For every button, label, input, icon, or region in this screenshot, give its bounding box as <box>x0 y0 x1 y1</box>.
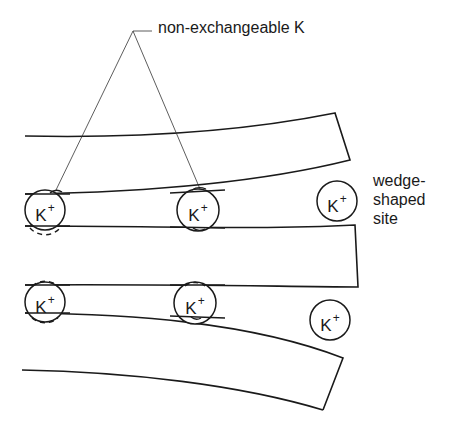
k-ion-label-5: K+ <box>175 283 215 323</box>
k-ion-label-6: K+ <box>310 300 350 340</box>
wedge-label-line-3: site <box>373 209 426 228</box>
wedge-shaped-site-label: wedge- shaped site <box>373 171 426 228</box>
middle-layer <box>25 225 358 287</box>
non-exchangeable-k-label: non-exchangeable K <box>158 19 305 37</box>
k-ion-label-2: K+ <box>178 190 218 230</box>
lower-layer-bottom <box>22 370 323 410</box>
diagram-canvas: non-exchangeable K wedge- shaped site K+… <box>0 0 465 433</box>
wedge-label-line-1: wedge- <box>373 171 426 190</box>
k-ion-label-3: K+ <box>317 181 357 221</box>
k-ion-label-1: K+ <box>25 190 65 230</box>
lower-layer <box>25 313 343 410</box>
leader-line-right <box>133 31 200 189</box>
k-ion-label-4: K+ <box>25 282 65 322</box>
wedge-label-line-2: shaped <box>373 190 426 209</box>
leader-line-left <box>56 31 133 190</box>
